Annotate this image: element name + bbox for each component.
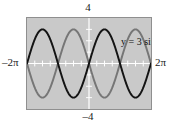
- sine-curves-svg: [27, 18, 151, 109]
- y-min-label: –4: [0, 111, 176, 122]
- curve-1-label: y = 3 sin x: [121, 37, 152, 47]
- x-max-label: 2π: [155, 57, 166, 68]
- figure-container: 4 –2π 2π –4 y = 3 sin x y = –3 sin x: [0, 0, 176, 126]
- plot-area: y = 3 sin x y = –3 sin x: [26, 17, 152, 110]
- y-max-label: 4: [0, 2, 176, 13]
- x-min-label: –2π: [2, 57, 19, 68]
